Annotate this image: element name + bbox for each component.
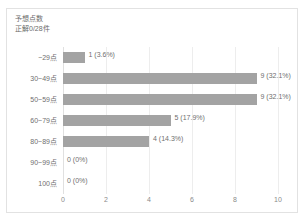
category-label: 50~59点 bbox=[5, 94, 57, 104]
x-axis-tick-label: 4 bbox=[147, 196, 151, 203]
category-label: 30~49点 bbox=[5, 73, 57, 83]
page-title: 予想点数 bbox=[15, 14, 50, 24]
plot-area: ~29点1 (3.6%)30~49点9 (32.1%)50~59点9 (32.1… bbox=[63, 47, 278, 194]
x-axis-tick-label: 6 bbox=[190, 196, 194, 203]
bar-row: 30~49点9 (32.1%) bbox=[63, 68, 305, 89]
category-label: 90~99点 bbox=[5, 157, 57, 167]
bar-row: 50~59点9 (32.1%) bbox=[63, 89, 305, 110]
bar-value-label: 1 (3.6%) bbox=[89, 51, 115, 58]
bar-value-label: 0 (0%) bbox=[67, 156, 88, 163]
x-axis: 0246810 bbox=[63, 194, 278, 208]
chart-title-block: 予想点数 正解0/28件 bbox=[15, 14, 50, 34]
chart-card: 予想点数 正解0/28件 ~29点1 (3.6%)30~49点9 (32.1%)… bbox=[6, 8, 298, 213]
bar-row: 80~89点4 (14.3%) bbox=[63, 131, 305, 152]
bar bbox=[63, 94, 257, 105]
bar-row: ~29点1 (3.6%) bbox=[63, 47, 305, 68]
bar-value-label: 9 (32.1%) bbox=[261, 72, 291, 79]
x-axis-tick-label: 10 bbox=[274, 196, 282, 203]
bar-value-label: 5 (17.9%) bbox=[175, 114, 205, 121]
x-axis-tick-label: 0 bbox=[61, 196, 65, 203]
bar bbox=[63, 115, 171, 126]
category-label: 80~89点 bbox=[5, 136, 57, 146]
chart-subtitle: 正解0/28件 bbox=[15, 24, 50, 34]
x-axis-tick-label: 2 bbox=[104, 196, 108, 203]
x-axis-tick-label: 8 bbox=[233, 196, 237, 203]
bar bbox=[63, 52, 85, 63]
bar-value-label: 0 (0%) bbox=[67, 177, 88, 184]
bar-value-label: 9 (32.1%) bbox=[261, 93, 291, 100]
bar-value-label: 4 (14.3%) bbox=[153, 135, 183, 142]
category-label: ~29点 bbox=[5, 52, 57, 62]
bar bbox=[63, 136, 149, 147]
bar-row: 100点0 (0%) bbox=[63, 173, 305, 194]
category-label: 60~79点 bbox=[5, 115, 57, 125]
bar bbox=[63, 73, 257, 84]
category-label: 100点 bbox=[5, 178, 57, 188]
bar-row: 90~99点0 (0%) bbox=[63, 152, 305, 173]
bar-row: 60~79点5 (17.9%) bbox=[63, 110, 305, 131]
